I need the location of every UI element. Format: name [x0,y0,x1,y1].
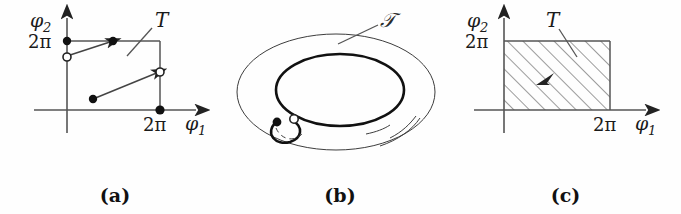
region-label-T: T [155,8,170,32]
trajectory-segment-upper [67,41,113,56]
panel-a-caption: (a) [0,184,230,206]
panel-a: T φ 2 φ 1 2π 2π (a) [0,0,230,214]
panel-b-drawing: 𝒯 [230,0,450,180]
panel-c-caption: (c) [450,184,681,206]
torus-outer-outline [237,34,435,150]
panel-c: T φ 2 φ 1 2π 2π (c) [450,0,681,214]
axis-label-x: φ [185,112,199,134]
tick-label-y-2pi: 2π [465,31,488,52]
torus-label-T: 𝒯 [380,8,402,32]
tick-label-x-2pi: 2π [143,114,166,135]
axis-label-x-sub: 1 [198,123,206,138]
marker-filled-loop-start [273,118,282,127]
marker-filled-upper-end [109,37,117,45]
marker-open-loop-end [290,115,298,123]
axis-label-x-sub: 1 [648,123,656,138]
panel-c-drawing: T φ 2 φ 1 2π 2π [450,0,681,180]
figure-three-panel-torus: T φ 2 φ 1 2π 2π (a) [0,0,681,214]
hatched-domain-fill [504,41,610,110]
region-label-leader [127,28,152,56]
axis-label-y: φ [30,9,44,31]
marker-filled-top-left [63,37,71,45]
axis-label-y: φ [467,9,481,31]
marker-open-left-edge [63,53,71,61]
trajectory-segment-lower [93,72,159,99]
panel-b-caption: (b) [230,184,450,206]
panel-a-drawing: T φ 2 φ 1 2π 2π [0,0,230,180]
axis-label-x: φ [635,112,649,134]
shading-arc-3 [366,125,390,134]
tick-label-y-2pi: 2π [28,31,51,52]
panel-b: 𝒯 (b) [230,0,450,214]
region-label-T: T [546,8,561,32]
tick-label-x-2pi: 2π [593,114,616,135]
marker-filled-lower-start [89,95,97,103]
marker-open-right-edge [156,68,164,76]
